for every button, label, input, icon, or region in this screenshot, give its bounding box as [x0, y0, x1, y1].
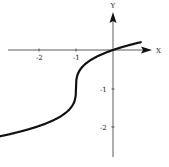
y-axis-label: Y	[110, 2, 116, 10]
y-tick-label: -1	[100, 86, 107, 94]
cube-root-curve	[0, 42, 141, 136]
x-tick-label: -2	[36, 54, 43, 62]
y-tick-label: -2	[100, 124, 107, 132]
function-graph: X Y -2 -1 -1 -2	[0, 0, 169, 167]
x-axis-label: X	[156, 47, 161, 55]
x-tick-label: -1	[73, 54, 80, 62]
